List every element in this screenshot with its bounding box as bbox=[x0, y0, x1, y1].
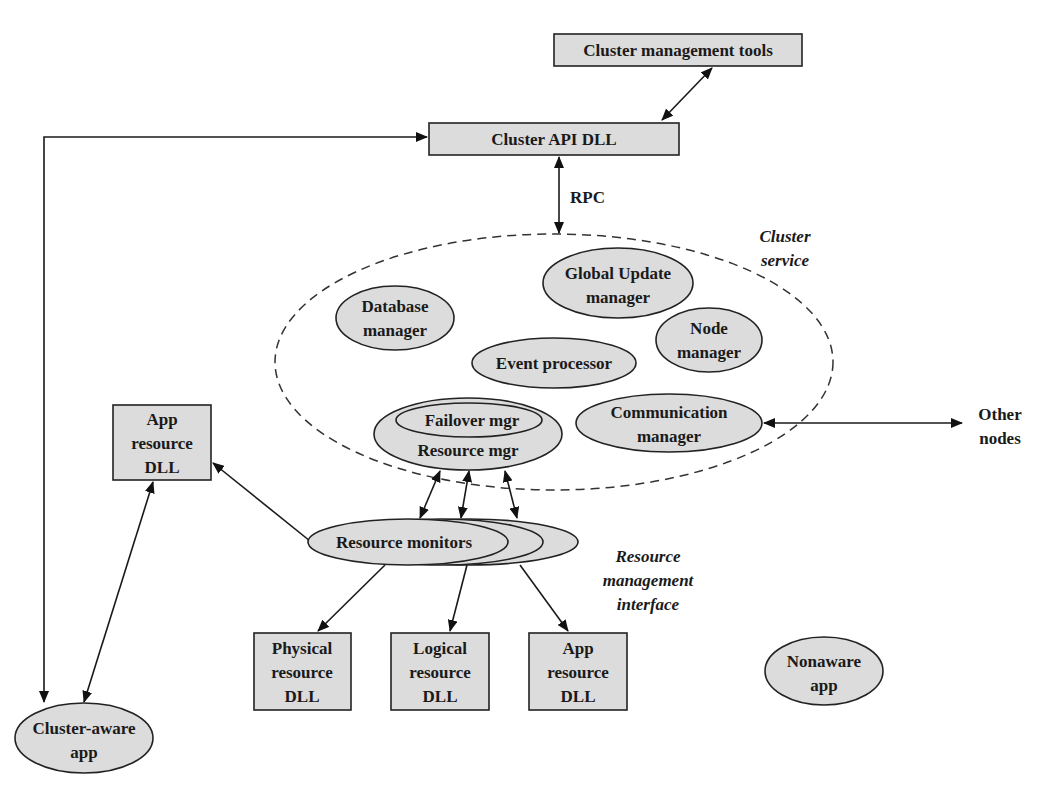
other-nodes-label-2: nodes bbox=[979, 429, 1021, 448]
resource-monitors-stack: Resource monitors bbox=[308, 519, 578, 565]
cluster-service-label-1: Cluster bbox=[759, 227, 810, 246]
nonaware-app-ellipse: Nonaware app bbox=[765, 637, 883, 705]
svg-text:manager: manager bbox=[586, 288, 651, 307]
svg-text:Physical: Physical bbox=[272, 639, 333, 658]
svg-text:Cluster-aware: Cluster-aware bbox=[33, 719, 136, 738]
svg-text:App: App bbox=[562, 639, 593, 658]
resmgr-monitor-arrow-2 bbox=[461, 471, 469, 518]
other-nodes-label-1: Other bbox=[978, 405, 1022, 424]
event-processor-ellipse: Event processor bbox=[472, 338, 636, 388]
cluster-aware-app-ellipse: Cluster-aware app bbox=[15, 703, 153, 773]
svg-text:Database: Database bbox=[361, 297, 429, 316]
svg-text:Communication: Communication bbox=[610, 403, 728, 422]
monitor-to-physical-arrow bbox=[318, 565, 385, 631]
svg-text:Logical: Logical bbox=[413, 639, 467, 658]
resource-mgmt-interface-label-1: Resource bbox=[614, 547, 681, 566]
monitor-to-logical-arrow bbox=[450, 565, 467, 631]
app-dll-cluster-aware-arrow bbox=[84, 482, 153, 702]
svg-text:resource: resource bbox=[271, 663, 333, 682]
svg-text:Resource mgr: Resource mgr bbox=[417, 441, 519, 460]
cluster-mgmt-tools-box: Cluster management tools bbox=[554, 34, 802, 66]
resource-mgmt-interface-label-3: interface bbox=[617, 595, 680, 614]
svg-text:app: app bbox=[70, 743, 97, 762]
svg-text:manager: manager bbox=[637, 427, 702, 446]
svg-text:Global Update: Global Update bbox=[565, 264, 672, 283]
svg-text:Event processor: Event processor bbox=[496, 354, 613, 373]
monitor-to-app-dll-arrow bbox=[213, 463, 310, 541]
svg-text:manager: manager bbox=[677, 343, 742, 362]
failover-mgr-ellipse: Failover mgr bbox=[396, 403, 542, 437]
app-resource-dll-left-box: App resource DLL bbox=[113, 405, 211, 480]
svg-text:DLL: DLL bbox=[423, 687, 458, 706]
svg-text:Cluster API DLL: Cluster API DLL bbox=[491, 130, 616, 149]
cluster-api-dll-box: Cluster API DLL bbox=[429, 123, 679, 155]
svg-text:Resource monitors: Resource monitors bbox=[336, 533, 473, 552]
rpc-label: RPC bbox=[570, 188, 605, 207]
tools-api-arrow bbox=[662, 68, 712, 120]
svg-text:App: App bbox=[146, 410, 177, 429]
cluster-architecture-diagram: Cluster management tools Cluster API DLL… bbox=[0, 0, 1053, 794]
physical-resource-dll-box: Physical resource DLL bbox=[254, 633, 351, 710]
svg-text:manager: manager bbox=[363, 321, 428, 340]
svg-text:resource: resource bbox=[131, 434, 193, 453]
monitor-to-app-arrow bbox=[520, 565, 568, 631]
logical-resource-dll-box: Logical resource DLL bbox=[391, 633, 489, 710]
global-update-manager-ellipse: Global Update manager bbox=[543, 248, 693, 318]
cluster-service-label-2: service bbox=[760, 251, 810, 270]
resmgr-monitor-arrow-1 bbox=[420, 471, 440, 518]
svg-text:Failover mgr: Failover mgr bbox=[425, 411, 520, 430]
api-to-cluster-aware-line bbox=[44, 137, 427, 702]
svg-text:resource: resource bbox=[547, 663, 609, 682]
svg-text:app: app bbox=[810, 676, 837, 695]
communication-manager-ellipse: Communication manager bbox=[576, 394, 762, 452]
resource-mgmt-interface-label-2: management bbox=[603, 571, 695, 590]
svg-text:Nonaware: Nonaware bbox=[787, 652, 862, 671]
svg-text:DLL: DLL bbox=[145, 458, 180, 477]
database-manager-ellipse: Database manager bbox=[336, 286, 454, 350]
svg-text:Node: Node bbox=[690, 319, 728, 338]
resmgr-monitor-arrow-3 bbox=[505, 471, 517, 518]
app-resource-dll-bottom-box: App resource DLL bbox=[529, 633, 627, 710]
svg-text:DLL: DLL bbox=[285, 687, 320, 706]
svg-text:DLL: DLL bbox=[561, 687, 596, 706]
node-manager-ellipse: Node manager bbox=[656, 308, 762, 372]
svg-text:Cluster management tools: Cluster management tools bbox=[583, 41, 773, 60]
svg-text:resource: resource bbox=[409, 663, 471, 682]
resource-mgr-ellipse: Failover mgr Resource mgr bbox=[374, 398, 562, 470]
